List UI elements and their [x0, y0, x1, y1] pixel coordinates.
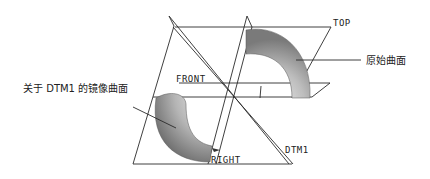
label-right: RIGHT [211, 155, 241, 165]
original-surface[interactable] [246, 29, 310, 98]
datum-plane-vertical[interactable] [208, 16, 252, 164]
label-dtm1: DTM1 [285, 145, 309, 155]
label-mirrored-surface: 关于 DTM1 的镜像曲面 [23, 82, 128, 94]
cad-viewport: TOP 原始曲面 FRONT 关于 DTM1 的镜像曲面 DTM1 RIGHT [0, 0, 430, 179]
small-arrow-marker [212, 148, 220, 152]
surface-edge-line [260, 86, 261, 98]
label-original-surface: 原始曲面 [366, 54, 406, 66]
label-top: TOP [333, 18, 351, 28]
mirrored-surface[interactable] [155, 93, 212, 162]
label-front: FRONT [176, 74, 206, 84]
